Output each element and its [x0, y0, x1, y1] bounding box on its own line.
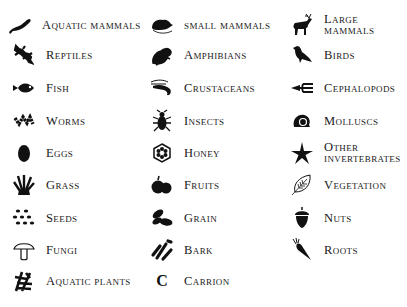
legend-item-worms: Worms: [12, 106, 85, 136]
legend-item-eggs: Eggs: [12, 138, 73, 168]
legend-item-molluscs: Molluscs: [290, 106, 378, 136]
acorn-icon: [290, 206, 314, 230]
legend-item-seeds: Seeds: [12, 203, 77, 233]
legend-label: Fungi: [46, 245, 77, 256]
legend-label: Large mammals: [324, 14, 407, 36]
legend-label: Worms: [46, 116, 85, 127]
worm-icon: [12, 109, 36, 133]
carrion-letter-icon: C: [150, 269, 174, 293]
mushroom-icon: [12, 238, 36, 262]
carrot-icon: [290, 238, 314, 262]
seal-icon: [8, 13, 32, 37]
legend-label: Fish: [46, 83, 69, 94]
legend-label: Crustaceans: [184, 83, 255, 94]
legend-item-carrion: C Carrion: [150, 266, 230, 296]
legend-item-other-invertebrates: Otherinvertebrates: [290, 138, 401, 168]
seeds-icon: [12, 206, 36, 230]
legend-item-roots: Roots: [290, 235, 358, 265]
legend-label: Eggs: [46, 148, 73, 159]
deer-icon: [290, 13, 314, 37]
fruit-icon: [150, 173, 174, 197]
legend-label: Otherinvertebrates: [324, 142, 401, 164]
honeycomb-icon: [150, 141, 174, 165]
legend-item-fruits: Fruits: [150, 170, 219, 200]
legend-item-honey: Honey: [150, 138, 220, 168]
legend-label: small mammals: [184, 20, 270, 31]
fish-icon: [12, 76, 36, 100]
legend-item-bark: Bark: [150, 235, 213, 265]
snail-shell-icon: [290, 109, 314, 133]
legend-label: Amphibians: [184, 50, 247, 61]
grain-icon: [150, 206, 174, 230]
legend-item-fish: Fish: [12, 73, 69, 103]
legend-item-grain: Grain: [150, 203, 217, 233]
bird-icon: [290, 43, 314, 67]
leaf-icon: [290, 173, 314, 197]
legend-label: Grain: [184, 213, 217, 224]
legend-item-birds: Birds: [290, 40, 355, 70]
legend-item-small-mammals: small mammals: [150, 10, 270, 40]
legend-item-aquatic-mammals: Aquatic mammals: [8, 10, 141, 40]
legend-label: Reptiles: [46, 50, 93, 61]
bark-icon: [150, 238, 174, 262]
aquatic-plant-icon: [12, 269, 36, 293]
grass-icon: [12, 173, 36, 197]
legend-label: Bark: [184, 245, 213, 256]
egg-icon: [12, 141, 36, 165]
beetle-icon: [150, 109, 174, 133]
legend-item-grass: Grass: [12, 170, 80, 200]
shrimp-icon: [150, 76, 174, 100]
legend-item-reptiles: Reptiles: [12, 40, 93, 70]
legend-label: Aquatic plants: [46, 276, 131, 287]
legend-label: Roots: [324, 245, 358, 256]
legend-label: Cephalopods: [324, 83, 395, 94]
rodent-icon: [150, 13, 174, 37]
lizard-icon: [12, 43, 36, 67]
legend-item-nuts: Nuts: [290, 203, 352, 233]
legend-label: Fruits: [184, 180, 219, 191]
squid-icon: [290, 76, 314, 100]
legend-item-amphibians: Amphibians: [150, 40, 247, 70]
legend-label: Molluscs: [324, 116, 378, 127]
legend-label: Carrion: [184, 276, 230, 287]
legend-label: Grass: [46, 180, 80, 191]
diet-legend: Aquatic mammals Reptiles Fish Worms Eggs…: [0, 0, 407, 307]
legend-label: Vegetation: [324, 180, 386, 191]
legend-label: Nuts: [324, 213, 352, 224]
legend-item-cephalopods: Cephalopods: [290, 73, 395, 103]
legend-item-large-mammals: Large mammals: [290, 10, 407, 40]
legend-label: Birds: [324, 50, 355, 61]
legend-item-aquatic-plants: Aquatic plants: [12, 266, 131, 296]
legend-item-insects: Insects: [150, 106, 224, 136]
legend-item-crustaceans: Crustaceans: [150, 73, 255, 103]
legend-item-vegetation: Vegetation: [290, 170, 386, 200]
starfish-icon: [290, 141, 314, 165]
legend-item-fungi: Fungi: [12, 235, 77, 265]
frog-icon: [150, 43, 174, 67]
legend-label-line2: invertebrates: [324, 151, 401, 165]
legend-label: Insects: [184, 116, 224, 127]
legend-label: Aquatic mammals: [42, 20, 141, 31]
legend-label: Seeds: [46, 213, 77, 224]
legend-label: Honey: [184, 148, 220, 159]
